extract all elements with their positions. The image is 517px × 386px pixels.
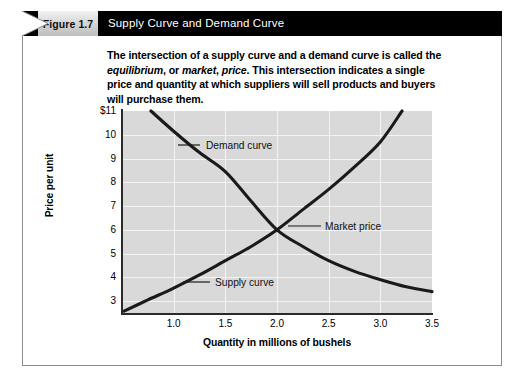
figure-caption: The intersection of a supply curve and a… (107, 48, 445, 106)
chevron-right-icon (22, 11, 48, 36)
figure-header-bar: Figure 1.7 Supply Curve and Demand Curve (22, 11, 502, 36)
figure-number-label: Figure 1.7 (43, 18, 94, 30)
figure-title: Supply Curve and Demand Curve (108, 11, 284, 36)
